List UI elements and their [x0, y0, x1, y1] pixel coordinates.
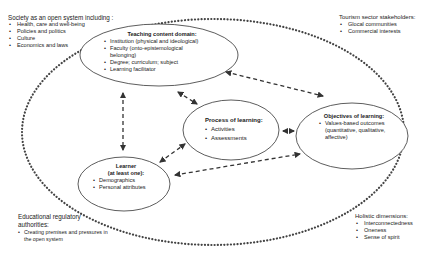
learner-item: Demographics	[93, 177, 159, 184]
teaching-node: Teaching content domain: Institution (ph…	[104, 31, 220, 73]
regulatory-item: Creating premises and pressures in the o…	[18, 229, 108, 243]
tourism-title: Tourism sector stakeholders:	[339, 14, 429, 21]
arrow-learner-process	[160, 144, 185, 162]
learner-node: Learner (at least one): Demographics Per…	[93, 163, 159, 191]
tourism-label: Tourism sector stakeholders: Glocal comm…	[339, 14, 429, 35]
teaching-item: Faculty (onto-epistemological belonging)	[104, 45, 190, 59]
teaching-title: Teaching content domain:	[104, 31, 220, 38]
arrow-teaching-objectives	[226, 72, 323, 96]
holistic-item: Sense of spirit	[355, 234, 430, 241]
process-item: Assessments	[205, 134, 275, 143]
holistic-title: Holistic dimensions:	[355, 213, 430, 220]
holistic-label: Holistic dimensions: Interconnectedness …	[355, 213, 430, 241]
regulatory-label: Educational regulatory authorities: Crea…	[18, 213, 108, 243]
arrow-teaching-process	[178, 92, 197, 104]
learner-item: Personal attributes	[93, 184, 159, 191]
process-node: Process of learning: Activities Assessme…	[205, 116, 275, 143]
tourism-item: Commercial interests	[339, 28, 429, 35]
process-item: Activities	[205, 125, 275, 134]
society-item: Health, care and well-being	[8, 21, 138, 28]
objectives-node: Objectives of learning: Values-based out…	[319, 113, 389, 141]
process-title: Process of learning:	[205, 116, 275, 125]
society-title: Society as an open system including :	[8, 14, 138, 21]
learner-title: Learner	[93, 163, 159, 170]
regulatory-title: Educational regulatory authorities:	[18, 213, 88, 228]
objectives-item: Values-based outcomes (quantitative, qua…	[319, 120, 389, 141]
holistic-item: Oneness	[355, 227, 430, 234]
teaching-item: Learning facilitator	[104, 66, 220, 73]
teaching-item: Institution (physical and ideological)	[104, 38, 220, 45]
objectives-title: Objectives of learning:	[319, 113, 389, 120]
tourism-item: Glocal communities	[339, 21, 429, 28]
teaching-item: Degree; curriculum; subject	[104, 59, 220, 66]
holistic-item: Interconnectedness	[355, 220, 430, 227]
learner-subtitle: (at least one):	[93, 170, 159, 177]
